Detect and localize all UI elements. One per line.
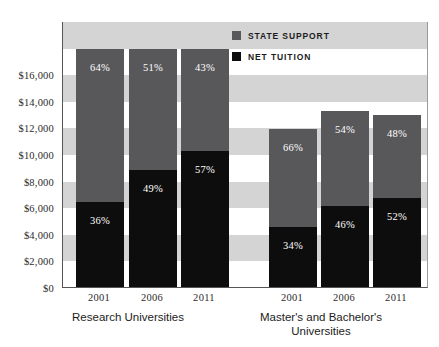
x-axis-tick-research-2006: 2006 [128, 292, 176, 303]
legend-item-label: NET TUITION [248, 52, 311, 62]
segment-label-net-tuition: 36% [76, 215, 124, 226]
segment-net-tuition: 34% [269, 227, 317, 287]
y-axis-tick-label: $2,000 [24, 256, 54, 267]
segment-label-net-tuition: 34% [269, 240, 317, 251]
y-axis-tick-label: $4,000 [24, 229, 54, 240]
segment-net-tuition: 52% [373, 198, 421, 287]
segment-state-support: 54% [321, 111, 369, 205]
bar-research-2011[interactable]: 43%57% [181, 49, 229, 287]
segment-state-support: 48% [373, 115, 421, 197]
legend-swatch-icon [232, 31, 241, 40]
x-axis-tick-masters-2011: 2011 [372, 292, 420, 303]
legend-item-label: STATE SUPPORT [248, 31, 330, 41]
segment-label-state-support: 54% [321, 124, 369, 135]
x-axis-tick-masters-2001: 2001 [268, 292, 316, 303]
y-axis-tick-label: $0 [43, 283, 54, 294]
segment-label-net-tuition: 57% [181, 164, 229, 175]
legend-swatch-icon [232, 52, 241, 61]
segment-net-tuition: 46% [321, 206, 369, 287]
bar-research-2006[interactable]: 51%49% [129, 49, 177, 287]
x-axis-ticks: 200120062011200120062011 [62, 292, 428, 310]
segment-label-state-support: 64% [76, 62, 124, 73]
segment-label-net-tuition: 46% [321, 219, 369, 230]
x-axis-tick-research-2001: 2001 [75, 292, 123, 303]
segment-state-support: 66% [269, 129, 317, 227]
bar-masters-2001[interactable]: 66%34% [269, 129, 317, 287]
segment-label-state-support: 51% [129, 62, 177, 73]
bar-research-2001[interactable]: 64%36% [76, 49, 124, 287]
segment-net-tuition: 49% [129, 170, 177, 287]
bar-masters-2006[interactable]: 54%46% [321, 111, 369, 287]
legend-item-state_support[interactable]: STATE SUPPORT [232, 27, 412, 44]
segment-state-support: 64% [76, 49, 124, 202]
y-axis-tick-label: $16,000 [18, 70, 54, 81]
y-axis-tick-label: $12,000 [18, 123, 54, 134]
y-axis-tick-label: $14,000 [18, 96, 54, 107]
y-axis-tick-label: $8,000 [24, 176, 54, 187]
segment-state-support: 43% [181, 49, 229, 151]
segment-net-tuition: 57% [181, 151, 229, 287]
group-label-line: Master's and Bachelor's [231, 310, 411, 324]
stacked-bar-chart: $16,000$14,000$12,000$10,000$8,000$6,000… [0, 0, 439, 347]
segment-label-net-tuition: 52% [373, 211, 421, 222]
segment-label-state-support: 43% [181, 62, 229, 73]
x-axis-tick-research-2011: 2011 [180, 292, 228, 303]
segment-label-state-support: 66% [269, 142, 317, 153]
segment-state-support: 51% [129, 49, 177, 170]
y-axis-tick-label: $6,000 [24, 203, 54, 214]
chart-legend: STATE SUPPORTNET TUITION [232, 27, 412, 69]
segment-label-net-tuition: 49% [129, 183, 177, 194]
y-axis-tick-label: $10,000 [18, 150, 54, 161]
group-label-line: Research Universities [38, 310, 218, 324]
segment-net-tuition: 36% [76, 202, 124, 287]
group-label-line: Universities [231, 324, 411, 338]
group-label-masters: Master's and Bachelor'sUniversities [231, 310, 411, 338]
bar-masters-2011[interactable]: 48%52% [373, 115, 421, 287]
x-axis-tick-masters-2006: 2006 [320, 292, 368, 303]
y-axis-labels: $16,000$14,000$12,000$10,000$8,000$6,000… [0, 0, 58, 347]
segment-label-state-support: 48% [373, 128, 421, 139]
legend-item-net_tuition[interactable]: NET TUITION [232, 48, 412, 65]
group-label-research: Research Universities [38, 310, 218, 324]
